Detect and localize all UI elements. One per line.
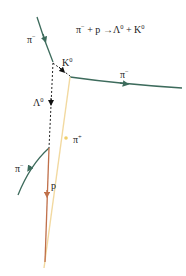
kaon-label: K0 <box>62 56 72 68</box>
lambda-label: Λ0 <box>33 96 44 108</box>
incoming-pion-track <box>37 17 53 62</box>
kaon-decay-pion-minus-label: π− <box>120 68 129 80</box>
incoming-pion-label: π− <box>27 33 36 45</box>
kaon-decay-pion-plus-label: π+ <box>73 133 82 145</box>
reaction-equation: π− + p →Λ0 + K0 <box>76 23 145 35</box>
kaon-decay-pion-minus-track <box>70 77 182 88</box>
bubble-chamber-diagram: π− + p →Λ0 + K0 π− K0 π− Λ0 π+ π− p <box>0 0 186 276</box>
proton-label: p <box>51 180 56 191</box>
lambda-track <box>49 63 53 148</box>
lambda-decay-pion-minus-label: π− <box>15 162 24 174</box>
diagram-svg: π− + p →Λ0 + K0 π− K0 π− Λ0 π+ π− p <box>0 0 186 276</box>
lambda-decay-pion-minus-track <box>18 148 49 195</box>
